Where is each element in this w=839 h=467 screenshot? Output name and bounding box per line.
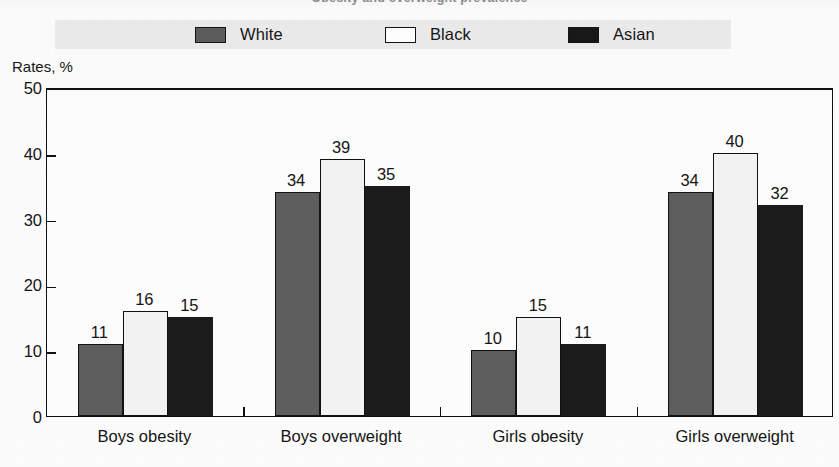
- y-axis-tick-label-0: 0: [2, 409, 42, 426]
- y-axis-tick-40: [47, 155, 56, 157]
- x-axis-label-boys-overweight: Boys overweight: [243, 428, 440, 445]
- legend-swatch-black-icon: [385, 27, 416, 43]
- legend-item-white[interactable]: White: [195, 20, 283, 49]
- bar-white-girls-overweight[interactable]: [668, 192, 713, 416]
- chart-page: Obesity and overweight prevalence White …: [0, 0, 839, 467]
- bar-asian-boys-obesity[interactable]: [168, 317, 213, 416]
- y-axis-tick-label-30: 30: [2, 212, 42, 229]
- x-axis-group-tick-1: [243, 407, 245, 416]
- y-axis-tick-20: [47, 287, 56, 289]
- legend-label-white: White: [240, 26, 283, 43]
- plot-inner: [47, 90, 832, 416]
- legend-item-black[interactable]: Black: [385, 20, 471, 49]
- legend-label-asian: Asian: [613, 26, 655, 43]
- bar-black-girls-obesity[interactable]: [516, 317, 561, 416]
- y-axis-tick-10: [47, 352, 56, 354]
- legend-swatch-white-icon: [195, 27, 226, 43]
- legend-item-asian[interactable]: Asian: [568, 20, 655, 49]
- bar-white-boys-overweight[interactable]: [275, 192, 320, 416]
- clipped-title-strip: Obesity and overweight prevalence: [0, 0, 839, 12]
- legend-swatch-asian-icon: [568, 27, 599, 43]
- x-axis-label-girls-overweight: Girls overweight: [636, 428, 833, 445]
- bar-white-boys-obesity[interactable]: [78, 344, 123, 416]
- y-axis-tick-label-10: 10: [2, 343, 42, 360]
- y-axis-tick-labels: 01020304050: [0, 0, 42, 467]
- bar-asian-boys-overweight[interactable]: [365, 186, 410, 416]
- y-axis-tick-30: [47, 221, 56, 223]
- x-axis-group-tick-3: [637, 407, 639, 416]
- bar-asian-girls-obesity[interactable]: [561, 344, 606, 416]
- bar-black-boys-overweight[interactable]: [320, 159, 365, 416]
- x-axis-label-girls-obesity: Girls obesity: [440, 428, 637, 445]
- y-axis-tick-label-50: 50: [2, 80, 42, 97]
- y-axis-tick-label-40: 40: [2, 146, 42, 163]
- x-axis-label-boys-obesity: Boys obesity: [46, 428, 243, 445]
- chart-legend: White Black Asian: [55, 20, 731, 49]
- plot-area: [46, 88, 833, 417]
- bar-white-girls-obesity[interactable]: [471, 350, 516, 416]
- legend-label-black: Black: [430, 26, 471, 43]
- y-axis-tick-label-20: 20: [2, 277, 42, 294]
- chart-title: Obesity and overweight prevalence: [0, 0, 839, 5]
- bar-black-girls-overweight[interactable]: [713, 153, 758, 416]
- x-axis-group-tick-2: [440, 407, 442, 416]
- bar-asian-girls-overweight[interactable]: [758, 205, 803, 416]
- bar-black-boys-obesity[interactable]: [123, 311, 168, 416]
- x-axis-category-labels: Boys obesityBoys overweightGirls obesity…: [46, 428, 833, 454]
